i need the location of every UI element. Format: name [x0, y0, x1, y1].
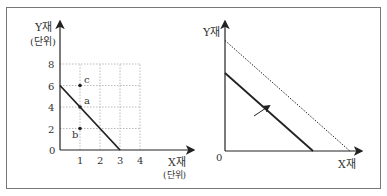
right-origin-label: 0 [216, 152, 222, 163]
left-series [60, 86, 120, 151]
point-label-a: a [84, 95, 90, 106]
figure-svg: cab 12342468 Y재 (단위) 0 X재 (단위) Y재 0 X재 [0, 0, 387, 196]
y-tick-label: 8 [48, 59, 54, 70]
point-b [78, 127, 82, 131]
left-y-axis-unit: (단위) [30, 35, 56, 47]
left-points: cab [72, 74, 90, 140]
point-c [78, 84, 82, 88]
right-y-axis-label: Y재 [202, 26, 220, 39]
y-tick-label: 2 [48, 124, 54, 135]
point-label-b: b [72, 129, 78, 140]
right-series [225, 41, 350, 152]
y-tick-label: 4 [48, 102, 54, 113]
x-tick-label: 3 [117, 155, 123, 166]
left-origin-label: 0 [49, 145, 55, 156]
budget-line [60, 86, 120, 151]
x-tick-label: 1 [77, 155, 83, 166]
shifted-budget-line [225, 41, 350, 152]
right-chart: Y재 0 X재 [202, 22, 361, 171]
point-a [78, 105, 82, 109]
x-tick-label: 2 [97, 155, 103, 166]
point-label-c: c [84, 74, 90, 85]
left-chart: cab 12342468 Y재 (단위) 0 X재 (단위) [30, 21, 193, 180]
original-budget-line [225, 73, 313, 151]
x-tick-label: 4 [137, 155, 143, 166]
left-x-axis-label: X재 [168, 156, 186, 169]
left-x-axis-unit: (단위) [163, 170, 186, 180]
y-tick-label: 6 [48, 81, 54, 92]
right-x-axis-label: X재 [338, 158, 356, 171]
left-y-axis-label: Y재 [34, 21, 52, 34]
